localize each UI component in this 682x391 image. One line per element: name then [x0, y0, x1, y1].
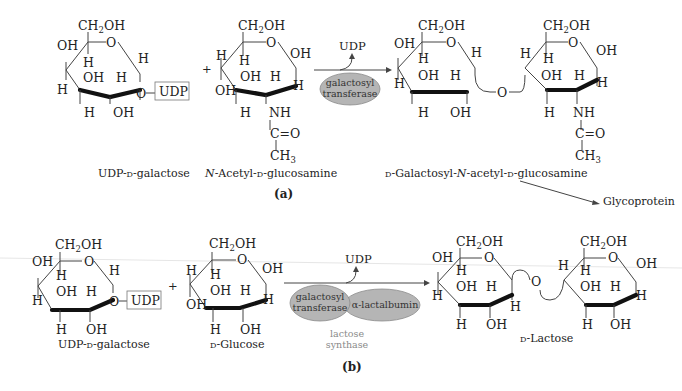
- svg-text:H: H: [109, 263, 120, 278]
- svg-text:H: H: [597, 75, 608, 90]
- svg-text:O: O: [84, 254, 94, 269]
- c1-link-o: O: [136, 86, 146, 101]
- b-product-name: d-Lactose: [520, 332, 573, 345]
- svg-text:H: H: [543, 51, 554, 66]
- b-glucose-structure: CH2OH O H H OH OH H OH H H OH: [186, 236, 283, 337]
- svg-text:H: H: [186, 263, 197, 278]
- svg-text:H: H: [418, 51, 429, 66]
- methyl: CH3: [270, 148, 296, 165]
- c3-oh: OH: [240, 69, 261, 84]
- reaction-diagram: CH2OH O OH H H OH H H H OH O UDP UDP-d-g…: [0, 0, 682, 391]
- svg-text:H: H: [520, 46, 531, 61]
- b-udp-galactose-structure: CH2OH O OH H H OH H H H OH O UDP: [32, 237, 161, 337]
- svg-text:OH: OH: [86, 322, 107, 337]
- c1-oh: OH: [290, 46, 311, 61]
- svg-text:O: O: [237, 252, 247, 267]
- svg-text:H: H: [418, 105, 429, 120]
- svg-text:OH: OH: [596, 43, 617, 58]
- b-reaction-arrow: UDP galactosyl transferase α-lactalbumin…: [284, 252, 430, 350]
- b-plus-sign: +: [168, 279, 178, 293]
- c2-nh: NH: [269, 105, 291, 120]
- c4-h: H: [216, 48, 227, 63]
- svg-text:H: H: [510, 299, 521, 314]
- svg-text:CH2OH: CH2OH: [456, 234, 503, 251]
- svg-text:OH: OH: [186, 297, 207, 312]
- svg-text:CH2OH: CH2OH: [55, 237, 102, 254]
- lactose-synthase-label-1: lactose: [330, 328, 364, 339]
- svg-text:H: H: [574, 68, 585, 83]
- svg-text:OH: OH: [541, 68, 562, 83]
- c2-oh: OH: [113, 105, 134, 120]
- svg-text:C=O: C=O: [575, 126, 605, 141]
- carbonyl: C=O: [270, 126, 300, 141]
- b-lactose-structure: CH2OH O OH H H OH H H H OH O CH2OH O H H…: [432, 234, 657, 332]
- svg-text:H: H: [263, 292, 274, 307]
- svg-text:α-lactalbumin: α-lactalbumin: [352, 299, 419, 310]
- svg-text:galactosyl: galactosyl: [326, 77, 375, 88]
- panel-a-label: (a): [274, 187, 293, 201]
- ch2oh-label: CH2OH: [543, 18, 590, 35]
- svg-text:H: H: [471, 45, 482, 60]
- ring-oxygen: O: [266, 35, 276, 50]
- svg-text:H: H: [394, 76, 405, 91]
- udp-label: UDP: [159, 84, 188, 99]
- c2-h: H: [270, 69, 281, 84]
- svg-text:OH: OH: [456, 279, 477, 294]
- a-udp-galactose-structure: CH2OH O OH H H OH H H H OH O UDP: [57, 18, 189, 120]
- svg-text:H: H: [240, 283, 251, 298]
- svg-text:H: H: [582, 317, 593, 332]
- a-reactant2-name: N-Acetyl-d-glucosamine: [204, 167, 337, 180]
- svg-text:OH: OH: [486, 317, 507, 332]
- svg-text:H: H: [544, 105, 555, 120]
- svg-text:OH: OH: [580, 279, 601, 294]
- a-product-name: d-Galactosyl-N-acetyl-d-glucosamine: [385, 167, 588, 180]
- a-byproduct-udp: UDP: [339, 39, 366, 53]
- ch2oh-label: CH2OH: [418, 18, 465, 35]
- c1-h: H: [293, 78, 304, 93]
- svg-text:H: H: [56, 268, 67, 283]
- svg-text:OH: OH: [636, 256, 657, 271]
- svg-text:H: H: [486, 279, 497, 294]
- c3-h: H: [240, 105, 251, 120]
- b-reactant1-name: UDP-d-galactose: [58, 338, 150, 351]
- glycosidic-oxygen: O: [497, 85, 507, 100]
- svg-text:OH: OH: [432, 250, 453, 265]
- panel-b-label: (b): [342, 360, 362, 374]
- svg-text:CH3: CH3: [575, 148, 601, 165]
- svg-text:UDP: UDP: [131, 293, 160, 308]
- c2-h: H: [116, 70, 127, 85]
- svg-text:transferase: transferase: [323, 88, 378, 99]
- c5-h: H: [83, 55, 94, 70]
- svg-text:H: H: [210, 267, 221, 282]
- svg-text:H: H: [636, 288, 647, 303]
- svg-text:H: H: [456, 263, 467, 278]
- b-byproduct-udp: UDP: [345, 252, 372, 266]
- svg-text:O: O: [568, 35, 578, 50]
- svg-text:OH: OH: [56, 284, 77, 299]
- a-nag-structure: CH2OH O H H OH OH H OH H H NH C=O CH3: [215, 18, 311, 165]
- svg-text:H: H: [86, 284, 97, 299]
- svg-text:H: H: [580, 263, 591, 278]
- svg-text:OH: OH: [32, 254, 53, 269]
- c3-oh: OH: [83, 70, 104, 85]
- ch2oh-label: CH2OH: [78, 18, 125, 35]
- svg-text:OH: OH: [450, 105, 471, 120]
- svg-text:O: O: [484, 250, 494, 265]
- glycoprotein-label: Glycoprotein: [603, 195, 675, 208]
- svg-text:H: H: [558, 258, 569, 273]
- c5-h: H: [239, 53, 250, 68]
- ring-oxygen: O: [446, 35, 456, 50]
- a-reactant1-name: UDP-d-galactose: [98, 167, 190, 180]
- svg-text:O: O: [109, 294, 119, 309]
- ch2oh-label: CH2OH: [238, 18, 285, 35]
- svg-text:H: H: [450, 68, 461, 83]
- svg-text:OH: OH: [394, 36, 415, 51]
- svg-text:OH: OH: [210, 283, 231, 298]
- svg-text:CH2OH: CH2OH: [580, 234, 627, 251]
- a-plus-sign: +: [202, 62, 212, 76]
- c3-h: H: [84, 105, 95, 120]
- ring-oxygen: O: [106, 35, 116, 50]
- glycoprotein-arrow: [520, 181, 596, 203]
- svg-text:OH: OH: [610, 317, 631, 332]
- b-reactant2-name: d-Glucose: [210, 338, 264, 351]
